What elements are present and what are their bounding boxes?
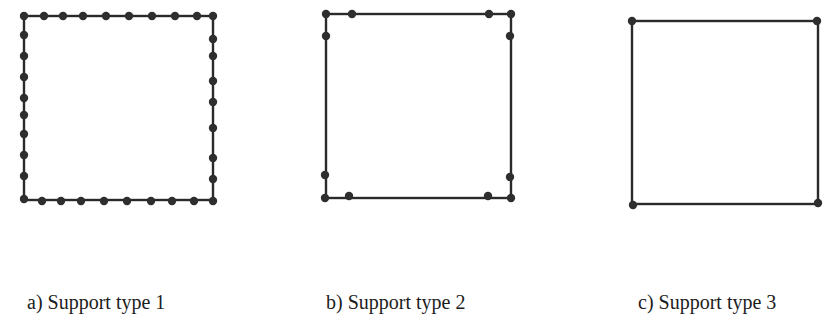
support-point-icon <box>348 10 356 18</box>
support-point-icon <box>168 197 176 205</box>
support-point-icon <box>125 12 133 20</box>
support-point-icon <box>57 197 65 205</box>
support-point-icon <box>485 10 493 18</box>
support-point-icon <box>193 12 201 20</box>
support-point-icon <box>507 10 515 18</box>
caption-support-type-2: b) Support type 2 <box>326 288 465 316</box>
support-point-icon <box>77 197 85 205</box>
caption-support-type-1: a) Support type 1 <box>27 288 165 316</box>
support-point-icon <box>100 197 108 205</box>
support-point-icon <box>20 151 28 159</box>
plate-outline <box>326 14 511 198</box>
support-point-icon <box>209 197 217 205</box>
plate-outline <box>24 16 213 200</box>
support-point-icon <box>147 197 155 205</box>
support-point-icon <box>123 197 131 205</box>
support-point-icon <box>20 73 28 81</box>
support-point-icon <box>148 12 156 20</box>
support-point-icon <box>20 31 28 39</box>
support-point-icon <box>20 172 28 180</box>
support-point-icon <box>209 35 217 43</box>
support-point-icon <box>629 201 637 209</box>
support-point-icon <box>209 124 217 132</box>
support-point-icon <box>209 98 217 106</box>
panel-support-type-1 <box>20 12 217 205</box>
support-point-icon <box>20 130 28 138</box>
support-point-icon <box>102 12 110 20</box>
support-point-icon <box>506 32 514 40</box>
support-point-icon <box>628 17 636 25</box>
support-point-icon <box>40 12 48 20</box>
support-point-icon <box>209 52 217 60</box>
support-point-icon <box>321 171 329 179</box>
support-point-icon <box>20 12 28 20</box>
support-point-icon <box>507 194 515 202</box>
support-point-icon <box>209 12 217 20</box>
caption-support-type-3: c) Support type 3 <box>638 288 776 316</box>
support-points <box>321 10 515 202</box>
support-point-icon <box>59 12 67 20</box>
support-point-icon <box>209 175 217 183</box>
support-point-icon <box>813 17 821 25</box>
support-point-icon <box>209 77 217 85</box>
support-types-figure <box>0 0 829 326</box>
support-point-icon <box>190 197 198 205</box>
support-point-icon <box>20 195 28 203</box>
support-point-icon <box>322 10 330 18</box>
support-points <box>20 12 217 205</box>
panel-support-type-3 <box>628 17 822 209</box>
support-point-icon <box>20 111 28 119</box>
support-point-icon <box>171 12 179 20</box>
support-point-icon <box>814 199 822 207</box>
support-point-icon <box>484 192 492 200</box>
support-point-icon <box>506 173 514 181</box>
support-point-icon <box>20 52 28 60</box>
support-point-icon <box>38 197 46 205</box>
panel-support-type-2 <box>321 10 515 202</box>
support-point-icon <box>321 194 329 202</box>
support-point-icon <box>79 12 87 20</box>
support-point-icon <box>345 192 353 200</box>
support-point-icon <box>20 94 28 102</box>
support-point-icon <box>209 154 217 162</box>
plate-outline <box>632 21 818 204</box>
support-point-icon <box>322 32 330 40</box>
support-points <box>628 17 822 209</box>
